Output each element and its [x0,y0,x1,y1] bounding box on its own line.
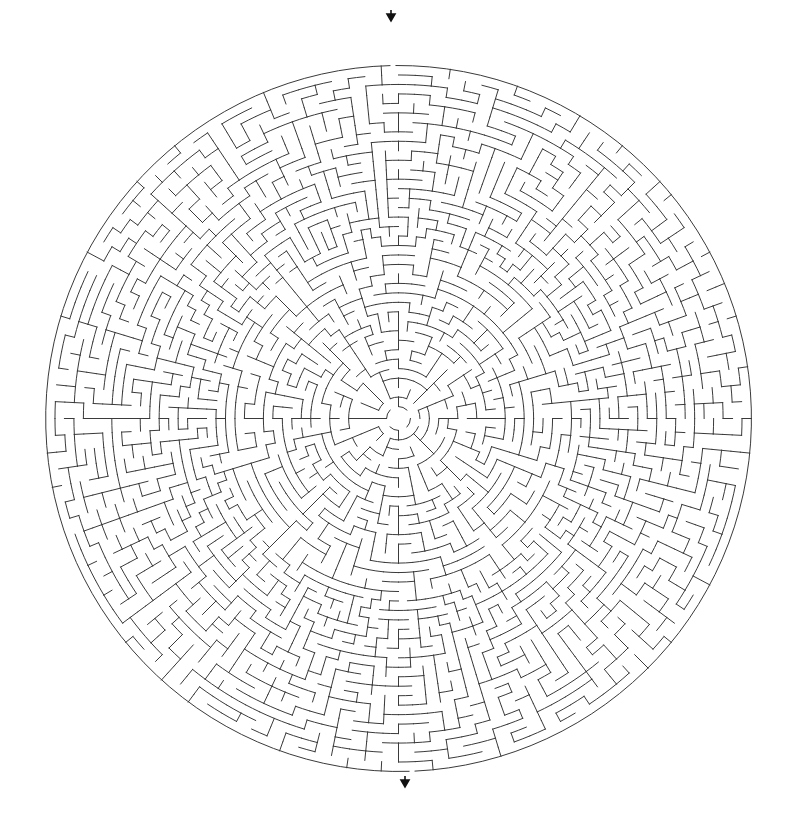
entrance-arrow-icon [387,10,395,21]
maze-walls [46,66,752,772]
maze-wall-path [46,66,752,772]
exit-arrow-icon [401,776,409,787]
arrow-head [387,14,395,21]
circular-maze[interactable] [0,0,786,833]
arrow-head [401,780,409,787]
